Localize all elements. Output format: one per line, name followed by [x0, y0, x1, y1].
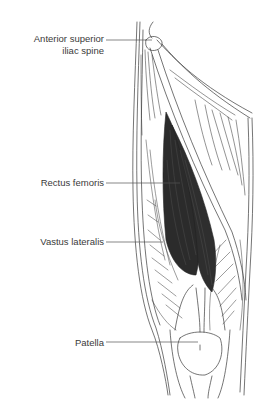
thigh-illustration: [0, 0, 270, 417]
label-asis-line1: Anterior superior: [34, 33, 104, 45]
thigh-muscle-diagram: Anterior superior iliac spine Rectus fem…: [0, 0, 270, 417]
label-patella: Patella: [75, 337, 104, 349]
label-asis-line2: iliac spine: [34, 45, 104, 57]
label-vastus-lateralis: Vastus lateralis: [40, 236, 104, 248]
label-rectus-femoris: Rectus femoris: [41, 177, 104, 189]
rectus-femoris-highlight: [163, 112, 216, 292]
asis-bone: [146, 22, 162, 51]
patella-knee: [170, 285, 230, 398]
label-anterior-superior-iliac-spine: Anterior superior iliac spine: [34, 33, 104, 57]
